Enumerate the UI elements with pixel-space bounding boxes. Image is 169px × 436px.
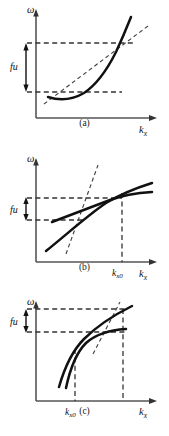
panel-a: ω kx fu (a) [0, 0, 169, 145]
fu-arrow-up-c [23, 309, 28, 316]
fu-label-b: fu [10, 204, 18, 215]
fu-label-a: fu [10, 61, 18, 72]
caption-b: (b) [0, 262, 169, 272]
caption-a: (a) [0, 118, 169, 128]
fu-label-c: fu [10, 316, 18, 327]
fu-arrow-down-a [23, 85, 28, 93]
y-axis-label-c: ω [27, 296, 34, 307]
caption-c: (c) [0, 406, 169, 416]
fu-arrow-up-a [23, 43, 28, 51]
panel-b: ω kx fu kx0 (b) [0, 145, 169, 291]
figure-container: ω kx fu (a) ω kx [0, 0, 169, 436]
y-axis-label-a: ω [27, 4, 34, 15]
panel-c: ω kx fu kx0 (c) [0, 291, 169, 436]
y-axis-label-b: ω [27, 153, 34, 164]
x-axis-arrow-c [149, 398, 157, 404]
dispersion-curve-a [48, 17, 131, 99]
